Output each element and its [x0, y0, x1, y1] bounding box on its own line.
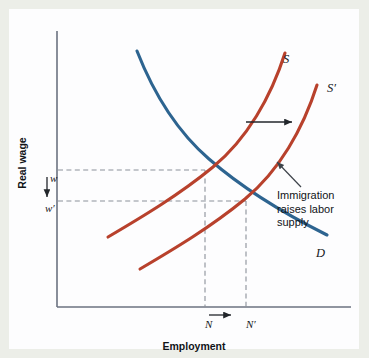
curve-label-supply-prime: S′: [327, 81, 336, 96]
supply-curve-S-prime: [140, 85, 317, 269]
annotation-line-1: Immigration: [277, 189, 363, 203]
annotation-leader-arrow: [277, 162, 301, 187]
y-axis-title: Real wage: [16, 123, 28, 203]
x-tick-label-N-prime: N′: [246, 318, 256, 330]
figure-container: Real wage Employment S S′ D w w′ N N′ Im…: [0, 0, 369, 358]
immigration-annotation: Immigration raises labor supply: [277, 189, 363, 230]
chart-panel: Real wage Employment S S′ D w w′ N N′ Im…: [9, 9, 359, 349]
annotation-line-2: raises labor: [277, 203, 363, 217]
curve-label-demand: D: [316, 246, 325, 261]
chart-plot-area: [9, 9, 359, 349]
y-tick-label-w: w: [50, 172, 57, 184]
x-tick-label-N: N: [205, 318, 212, 330]
y-tick-label-w-prime: w′: [45, 202, 55, 214]
supply-curve-S: [108, 53, 285, 237]
annotation-line-3: supply: [277, 216, 363, 230]
curve-label-supply: S: [283, 52, 289, 67]
x-axis-title: Employment: [149, 340, 239, 352]
